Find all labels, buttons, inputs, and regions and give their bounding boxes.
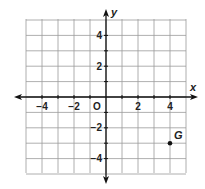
coordinate-plane: −4−22442−2−4 x y O G xyxy=(0,0,205,189)
y-tick-label: −2 xyxy=(91,122,103,133)
x-tick-label: 4 xyxy=(167,101,173,112)
point-label-g: G xyxy=(174,129,183,141)
y-tick-label: −4 xyxy=(91,153,103,164)
origin-label: O xyxy=(93,101,101,112)
point-g xyxy=(168,141,173,146)
x-tick-label: 2 xyxy=(135,101,141,112)
x-tick-label: −4 xyxy=(36,101,48,112)
y-tick-label: 4 xyxy=(96,30,102,41)
x-axis-label: x xyxy=(189,81,197,93)
x-tick-label: −2 xyxy=(68,101,80,112)
y-axis-label: y xyxy=(110,6,118,18)
y-tick-label: 2 xyxy=(96,61,102,72)
